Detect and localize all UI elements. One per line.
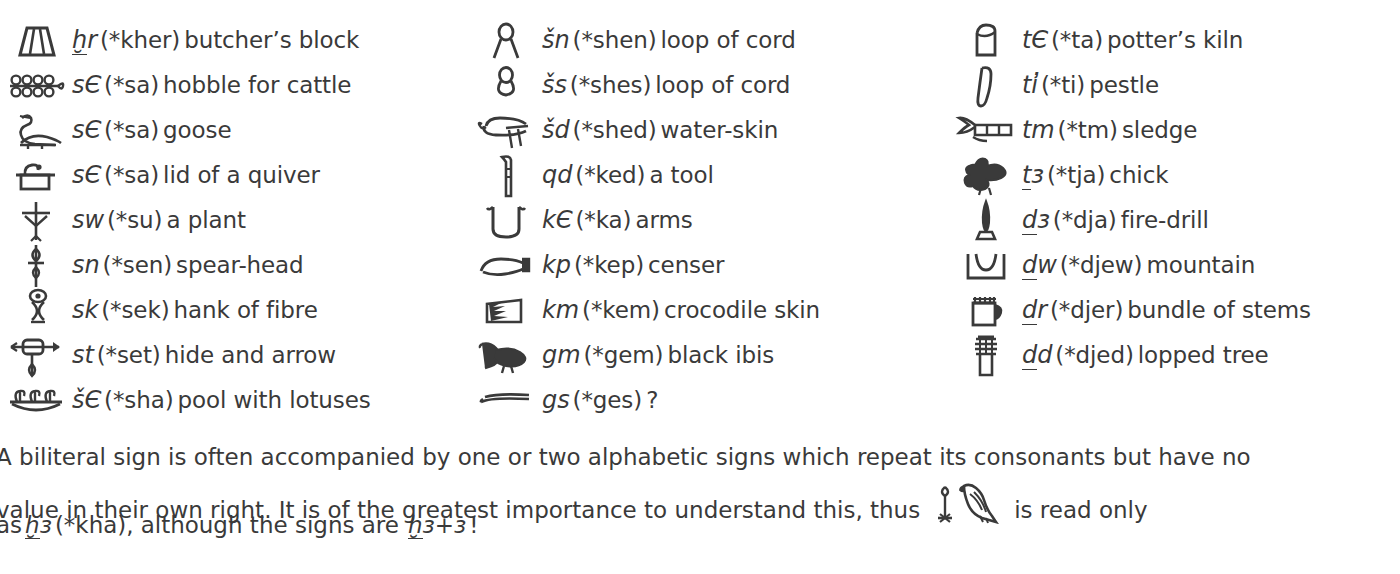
sign-row: km(*kem)crocodile skin [470, 288, 950, 333]
transliteration: sw [72, 206, 107, 234]
phonetic: (*ges) [573, 387, 647, 413]
phonetic: (*tm) [1058, 117, 1122, 143]
phonetic: (*ked) [575, 162, 649, 188]
phonetic: (*ta) [1051, 27, 1107, 53]
transliteration: šn [542, 26, 573, 54]
transliteration: dd [1022, 341, 1055, 369]
phonetic: (*sen) [103, 252, 177, 278]
sign-gloss: tз(*tja)chick [1022, 163, 1168, 188]
phonetic: (*sa) [104, 72, 163, 98]
fire-drill-glyph [950, 198, 1022, 243]
sign-gloss: sЄ(*sa)hobble for cattle [72, 73, 351, 98]
phonetic: (*tja) [1047, 162, 1109, 188]
mountain-glyph [950, 243, 1022, 288]
phonetic: (*shes) [570, 72, 655, 98]
sign-column-1: ḫr(*kher)butcher’s block [0, 18, 470, 423]
sign-gloss: dз(*dja)fire-drill [1022, 208, 1209, 233]
phonetic: (*kem) [582, 297, 664, 323]
meaning: hank of fibre [174, 297, 318, 323]
meaning: ? [646, 387, 658, 413]
explanatory-note: A biliteral sign is often accompanied by… [0, 440, 1400, 542]
butchers-block-glyph [0, 18, 72, 63]
a-tool-glyph [470, 153, 542, 198]
transliteration: šs [542, 71, 570, 99]
pestle-glyph [950, 63, 1022, 108]
plant-glyph [0, 198, 72, 243]
sign-gloss: kЄ(*ka)arms [542, 208, 693, 233]
meaning: loop of cord [655, 72, 790, 98]
phonetic: (*sa) [104, 162, 163, 188]
sign-gloss: gs(*ges)? [542, 388, 658, 413]
meaning: loop of cord [661, 27, 796, 53]
meaning: water-skin [661, 117, 779, 143]
crocodile-skin-glyph [470, 288, 542, 333]
transliteration: ti̓ [1022, 71, 1041, 99]
note-line-3-middle: although the signs are [134, 508, 399, 542]
sign-row: šЄ(*sha)pool with lotuses [0, 378, 470, 423]
sign-gloss: kp(*kep)censer [542, 253, 724, 278]
sign-row: dd(*djed)lopped tree [950, 333, 1400, 378]
pool-with-lotuses-glyph [0, 378, 72, 423]
sign-gloss: sw(*su)a plant [72, 208, 246, 233]
phonetic: (*djew) [1060, 252, 1147, 278]
transliteration: dw [1022, 251, 1060, 279]
sign-gloss: tm(*tm)sledge [1022, 118, 1197, 143]
sign-gloss: qd(*ked)a tool [542, 163, 714, 188]
spear-head-glyph [0, 243, 72, 288]
transliteration: tз [1022, 161, 1047, 189]
sign-row: sЄ(*sa)hobble for cattle [0, 63, 470, 108]
sign-row: gm(*gem)black ibis [470, 333, 950, 378]
lid-of-quiver-glyph [0, 153, 72, 198]
meaning: bundle of stems [1127, 297, 1311, 323]
meaning: black ibis [667, 342, 774, 368]
hobble-for-cattle-glyph [0, 63, 72, 108]
hide-and-arrow-glyph [0, 333, 72, 378]
phonetic: (*ti) [1041, 72, 1089, 98]
biliteral-sign-table: ḫr(*kher)butcher’s block [0, 18, 1400, 430]
hank-of-fibre-glyph [0, 288, 72, 333]
inline-example-glyphs [920, 480, 1014, 533]
phonetic: (*kep) [574, 252, 648, 278]
phonetic: (*kher) [100, 27, 184, 53]
potters-kiln-glyph [950, 18, 1022, 63]
sign-gloss: šn(*shen)loop of cord [542, 28, 796, 53]
sign-gloss: gm(*gem)black ibis [542, 343, 774, 368]
meaning: potter’s kiln [1107, 27, 1243, 53]
meaning: fire-drill [1121, 207, 1209, 233]
phonetic: (*su) [107, 207, 167, 233]
sign-gloss: dw(*djew)mountain [1022, 253, 1255, 278]
meaning: hobble for cattle [163, 72, 351, 98]
sign-gloss: dr(*djer)bundle of stems [1022, 298, 1311, 323]
bundle-of-stems-glyph [950, 288, 1022, 333]
transliteration: gs [542, 386, 573, 414]
sign-row: dr(*djer)bundle of stems [950, 288, 1400, 333]
meaning: mountain [1146, 252, 1255, 278]
transliteration: šЄ [72, 386, 104, 414]
sign-gloss: šd(*shed)water-skin [542, 118, 778, 143]
chick-glyph [950, 153, 1022, 198]
phonetic: (*djed) [1055, 342, 1138, 368]
transliteration: sk [72, 296, 101, 324]
sign-row: tm(*tm)sledge [950, 108, 1400, 153]
phonetic: (*sek) [101, 297, 173, 323]
goose-glyph [0, 108, 72, 153]
meaning: lopped tree [1138, 342, 1269, 368]
transliteration: dз [1022, 206, 1053, 234]
sign-row: ḫr(*kher)butcher’s block [0, 18, 470, 63]
transliteration: st [72, 341, 97, 369]
arms-glyph [470, 198, 542, 243]
meaning: chick [1109, 162, 1168, 188]
note-line-3-end: ! [469, 508, 478, 542]
transliteration: dr [1022, 296, 1050, 324]
sign-row: dw(*djew)mountain [950, 243, 1400, 288]
sign-column-2: šn(*shen)loop of cord šs(*shes)loop of c… [470, 18, 950, 423]
sign-gloss: šs(*shes)loop of cord [542, 73, 790, 98]
meaning: spear-head [176, 252, 304, 278]
sign-gloss: sn(*sen)spear-head [72, 253, 304, 278]
phonetic: (*djer) [1050, 297, 1127, 323]
sign-row: st(*set)hide and arrow [0, 333, 470, 378]
meaning: censer [648, 252, 724, 278]
sign-row: dз(*dja)fire-drill [950, 198, 1400, 243]
loop-of-cord-shes-glyph [470, 63, 542, 108]
vulture-glyph [958, 480, 1000, 533]
